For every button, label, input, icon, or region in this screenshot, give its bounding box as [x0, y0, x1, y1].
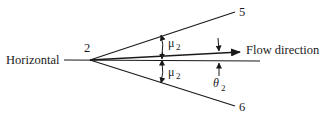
vertex-label: 2 [84, 41, 90, 55]
mu-lower-subscript: 2 [176, 71, 181, 81]
horizontal-label: Horizontal [6, 53, 60, 67]
wave-angle-diagram: Horizontal 2 5 6 Flow direction μ 2 μ 2 … [0, 0, 324, 119]
theta-label: θ [213, 76, 219, 90]
mu-upper-label: μ [168, 36, 174, 50]
mu-lower-arc [161, 62, 163, 83]
upper-line-label: 5 [239, 5, 245, 19]
flow-direction-label: Flow direction [246, 43, 320, 57]
mu-upper-subscript: 2 [176, 42, 181, 52]
theta-upper-arrow [218, 38, 219, 51]
theta-subscript: 2 [221, 83, 226, 93]
mu-lower-label: μ [168, 65, 174, 79]
lower-line-label: 6 [239, 100, 245, 114]
